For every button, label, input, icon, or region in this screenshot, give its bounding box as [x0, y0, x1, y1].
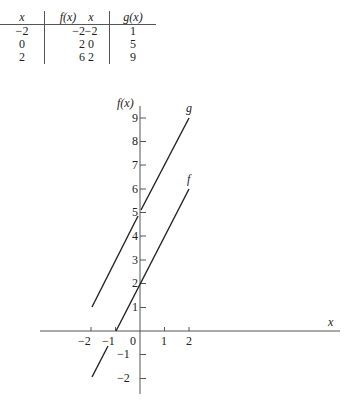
y-tick-label: 9: [132, 111, 138, 125]
y-tick-label: 1: [132, 300, 138, 314]
y-tick-label: 8: [132, 134, 138, 148]
y-axis-label: f(x): [117, 96, 134, 110]
x-tick-label: 0: [130, 334, 136, 348]
line-f: [92, 346, 108, 377]
x-tick-label: 1: [161, 334, 167, 348]
y-tick-label: −2: [117, 371, 130, 385]
line-g-label: g: [186, 101, 192, 115]
line-g: [141, 118, 189, 210]
y-tick-label: 4: [132, 229, 138, 243]
x-axis-label: x: [327, 315, 334, 329]
line-f: [116, 189, 189, 331]
y-tick-label: 6: [132, 182, 138, 196]
y-tick-label: 2: [132, 276, 138, 290]
x-tick-label: −2: [78, 334, 91, 348]
y-ticks: [140, 118, 146, 379]
x-tick-label: 2: [186, 334, 192, 348]
y-tick-label: 3: [132, 253, 138, 267]
y-tick-label: 7: [132, 158, 138, 172]
x-tick-label: −1: [102, 334, 115, 348]
y-tick-label: −1: [117, 347, 130, 361]
graph: −2 −1 0 1 2 −2 −1 1 2 3 4 5 6 7 8 9 f(x)…: [0, 0, 351, 404]
line-f-label: f: [187, 172, 192, 186]
